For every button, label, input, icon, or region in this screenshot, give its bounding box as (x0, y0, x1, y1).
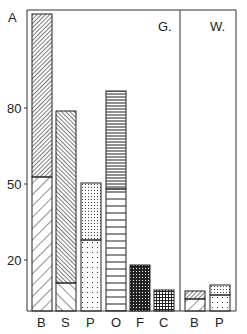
bar-g-c (154, 290, 174, 311)
x-label-g-p: P (86, 315, 95, 330)
bar-g-o (106, 91, 126, 311)
bar-g-b (32, 14, 52, 311)
y-axis-title: A (8, 10, 17, 25)
bar-g-s (56, 111, 76, 311)
bar-g-p (81, 183, 101, 311)
x-axis-labels: B S P O F C B P (37, 315, 224, 330)
x-label-g-s: S (61, 315, 70, 330)
group-header-g: G. (158, 19, 172, 34)
x-label-g-c: C (159, 315, 168, 330)
y-tick-50: 50 (7, 177, 21, 192)
bar-g-f (130, 265, 150, 311)
y-tick-20: 20 (7, 253, 21, 268)
x-label-w-b: B (190, 315, 199, 330)
bar-w-b (185, 291, 205, 311)
x-label-g-o: O (111, 315, 121, 330)
bar-w-p (210, 285, 230, 311)
y-tick-80: 80 (7, 101, 21, 116)
x-label-g-f: F (136, 315, 144, 330)
group-header-w: W. (210, 19, 225, 34)
stacked-bar-chart: A 80 50 20 G. W. B S (0, 0, 247, 334)
x-label-w-p: P (215, 315, 224, 330)
y-axis: A 80 50 20 (7, 10, 27, 268)
x-label-g-b: B (37, 315, 46, 330)
